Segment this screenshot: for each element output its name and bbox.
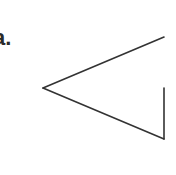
lower-ray-line (43, 88, 164, 139)
upper-ray-line (43, 37, 164, 88)
angle-diagram (0, 0, 176, 175)
